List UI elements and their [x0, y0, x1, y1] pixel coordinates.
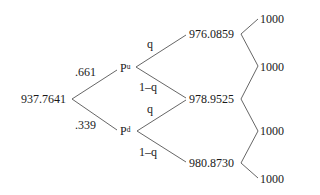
- leaf-value-3: 1000: [260, 125, 284, 137]
- node-p-down: Pd: [120, 125, 130, 137]
- leaf-value-4: 1000: [260, 173, 284, 185]
- node-p-down-sup: d: [127, 125, 131, 134]
- edge-label-pd-down: 1–q: [139, 146, 157, 158]
- edge-l2c-leaf4: [241, 163, 258, 178]
- leaf-value-1: 1000: [260, 13, 284, 25]
- leaf-value-2: 1000: [260, 61, 284, 73]
- node-p-up: Pu: [120, 62, 130, 74]
- edge-pd-up: [137, 100, 186, 131]
- edge-l2a-leaf1: [241, 19, 258, 34]
- edge-label-pd-up: q: [147, 103, 153, 115]
- edge-prob-up: .661: [75, 66, 96, 78]
- level2-value-2: 978.9525: [189, 93, 234, 105]
- edge-prob-down: .339: [75, 119, 96, 131]
- edge-l2b-leaf2: [241, 66, 258, 99]
- node-p-up-base: P: [120, 61, 127, 75]
- edge-l2b-leaf3: [241, 99, 258, 131]
- edge-label-pu-up: q: [147, 38, 153, 50]
- level2-value-1: 976.0859: [189, 28, 234, 40]
- level2-value-3: 980.8730: [189, 157, 234, 169]
- root-value: 937.7641: [21, 93, 66, 105]
- edge-l2a-leaf2: [241, 34, 258, 66]
- node-p-down-base: P: [120, 124, 127, 138]
- edge-l2c-leaf3: [241, 131, 258, 163]
- edge-pu-up: [136, 35, 186, 67]
- edge-label-pu-down: 1–q: [139, 81, 157, 93]
- node-p-up-sup: u: [127, 62, 131, 71]
